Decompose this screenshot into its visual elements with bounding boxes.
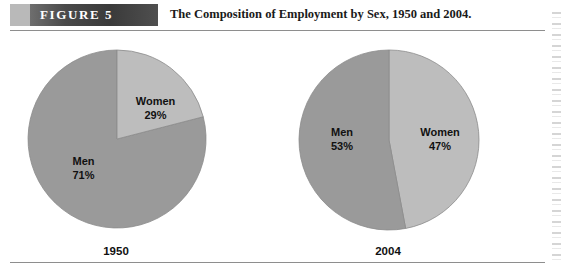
figure-page: FIGURE 5 The Composition of Employment b… — [0, 0, 562, 275]
pie-chart-1950-svg — [26, 48, 208, 230]
pie-slice-women-2004 — [389, 50, 479, 228]
pie-chart-2004-svg — [297, 48, 481, 232]
pie-year-label-2004: 2004 — [328, 245, 448, 257]
pie-year-label-1950: 1950 — [56, 245, 176, 257]
figure-number-banner: FIGURE 5 — [10, 4, 158, 26]
pie-chart-1950: Women 29% Men 71% — [26, 48, 208, 230]
figure-caption: The Composition of Employment by Sex, 19… — [170, 7, 471, 22]
pie-chart-2004: Women 47% Men 53% — [297, 48, 481, 232]
figure-header: FIGURE 5 The Composition of Employment b… — [0, 4, 545, 27]
scan-margin-artifact — [552, 12, 561, 262]
header-divider-rule — [10, 30, 545, 31]
figure-number-label: FIGURE 5 — [40, 7, 113, 23]
figure-bottom-rule — [10, 262, 545, 263]
